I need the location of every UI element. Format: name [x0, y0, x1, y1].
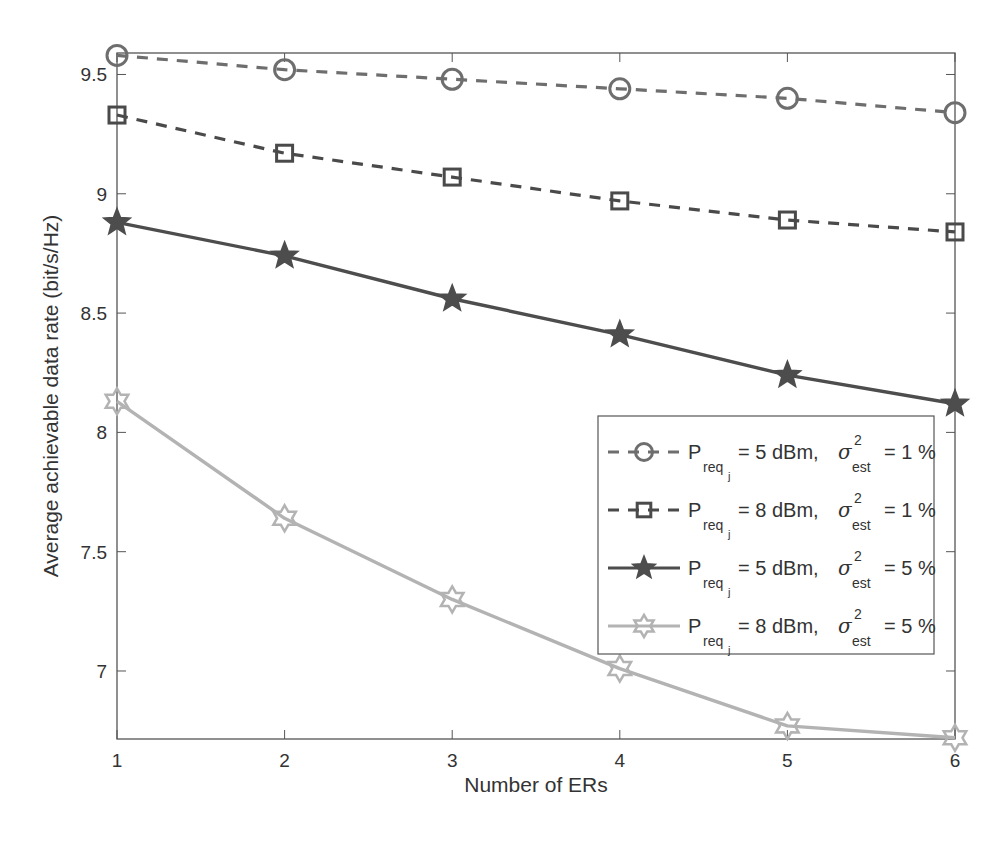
series-1 [107, 45, 965, 122]
series-line [117, 115, 955, 232]
legend-est-subscript: est [852, 517, 871, 533]
y-tick-label: 9 [96, 184, 107, 205]
legend-subsubscript: j [727, 470, 730, 482]
y-tick-label: 9.5 [81, 64, 107, 85]
legend-sigma-value: = 5 % [884, 615, 936, 637]
legend-label: P [688, 499, 701, 521]
legend: Preqj= 5 dBm,σ2est= 1 %Preqj= 8 dBm,σ2es… [598, 416, 936, 656]
star-marker [606, 321, 633, 346]
legend-p-value: = 5 dBm, [738, 441, 819, 463]
legend-est-subscript: est [852, 633, 871, 649]
series-2 [109, 107, 963, 240]
legend-subscript: req [703, 517, 723, 533]
legend-p-value: = 8 dBm, [738, 499, 819, 521]
legend-p-value: = 8 dBm, [738, 615, 819, 637]
star-marker [271, 242, 298, 267]
legend-subscript: req [703, 459, 723, 475]
star-marker [774, 361, 801, 386]
series-line [117, 222, 955, 403]
legend-subscript: req [703, 575, 723, 591]
legend-sigma-value: = 1 % [884, 441, 936, 463]
y-axis-label: Average achievable data rate (bit/s/Hz) [39, 215, 62, 578]
x-tick-label: 4 [615, 750, 626, 771]
legend-sigma: σ [838, 440, 853, 464]
legend-sigma-value: = 5 % [884, 557, 936, 579]
legend-label: P [688, 557, 701, 579]
x-tick-label: 3 [447, 750, 458, 771]
series-line [117, 55, 955, 112]
x-tick-label: 2 [279, 750, 290, 771]
y-tick-label: 7.5 [81, 542, 107, 563]
line-chart: 12345677.588.599.5 Number of ERs Average… [0, 0, 1003, 850]
legend-superscript: 2 [854, 432, 862, 448]
axis-ticks: 12345677.588.599.5 [81, 53, 961, 771]
y-tick-label: 8.5 [81, 303, 107, 324]
legend-est-subscript: est [852, 575, 871, 591]
legend-superscript: 2 [854, 548, 862, 564]
legend-subscript: req [703, 633, 723, 649]
star-marker [439, 285, 466, 310]
legend-sigma: σ [838, 614, 853, 638]
legend-subsubscript: j [727, 528, 730, 540]
legend-subsubscript: j [727, 644, 730, 656]
legend-label: P [688, 615, 701, 637]
x-tick-label: 1 [112, 750, 123, 771]
series-3 [104, 208, 969, 415]
legend-est-subscript: est [852, 459, 871, 475]
legend-superscript: 2 [854, 606, 862, 622]
y-tick-label: 7 [96, 661, 107, 682]
legend-label: P [688, 441, 701, 463]
y-tick-label: 8 [96, 422, 107, 443]
legend-subsubscript: j [727, 586, 730, 598]
x-axis-label: Number of ERs [464, 773, 608, 796]
legend-sigma: σ [838, 498, 853, 522]
x-tick-label: 5 [782, 750, 793, 771]
legend-sigma: σ [838, 556, 853, 580]
legend-p-value: = 5 dBm, [738, 557, 819, 579]
legend-superscript: 2 [854, 490, 862, 506]
legend-sigma-value: = 1 % [884, 499, 936, 521]
